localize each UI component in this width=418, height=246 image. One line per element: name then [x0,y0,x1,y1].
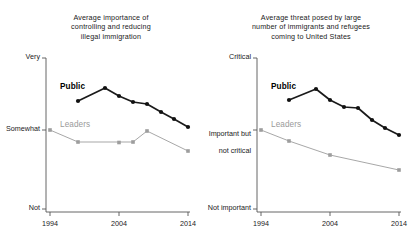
data-point-leaders [145,129,149,133]
y-axis-label-important-line-1: Important but [199,130,251,139]
chart-panel-right: Average threat posed by large number of … [209,0,418,246]
x-axis-label-2004-left: 2004 [99,219,139,228]
data-point-leaders [328,153,332,157]
data-point-leaders [76,140,80,144]
data-point-public [370,118,374,122]
data-point-public [159,110,163,114]
y-axis-label-not-important-right: Not important [197,204,251,213]
data-point-public [117,94,121,98]
x-axis-label-2004-right: 2004 [310,219,350,228]
data-point-public [342,105,346,109]
x-axis-label-1994-right: 1994 [241,219,281,228]
y-axis-label-important-right: Important but not critical [199,121,251,165]
series-line-leaders-left [50,130,188,151]
data-point-public [76,99,80,103]
data-point-public [131,100,135,104]
y-axis-label-not-left: Not [0,204,40,213]
data-point-public [356,106,360,110]
data-point-public [383,126,387,130]
data-point-leaders [48,128,52,132]
series-annotation-leaders-left: Leaders [60,120,90,129]
data-point-leaders [259,128,263,132]
data-point-leaders [287,139,291,143]
x-axis-label-2014-right: 2014 [379,219,418,228]
data-point-leaders [131,140,135,144]
data-point-public [314,87,318,91]
data-point-public [328,98,332,102]
series-annotation-leaders-right: Leaders [271,120,301,129]
data-point-public [103,86,107,90]
series-annotation-public-right: Public [271,82,296,91]
series-line-public-right [289,89,399,135]
y-axis-label-very-left: Very [0,53,40,62]
chart-panel-left: Average importance of controlling and re… [0,0,209,246]
data-point-public [186,125,190,129]
y-axis-label-critical-right: Critical [209,53,251,62]
series-annotation-public-left: Public [60,82,85,91]
data-point-public [287,98,291,102]
data-point-leaders [117,141,121,145]
y-axis-label-somewhat-left: Somewhat [0,125,40,134]
data-point-leaders [397,168,401,172]
y-axis-label-important-line-2: not critical [199,147,251,156]
data-point-leaders [186,149,190,153]
series-line-leaders-right [261,130,399,170]
series-line-public-left [78,88,188,127]
data-point-public [145,102,149,106]
x-axis-label-2014-left: 2014 [168,219,208,228]
dual-line-chart-figure: Average importance of controlling and re… [0,0,418,246]
data-point-public [172,117,176,121]
data-point-public [397,133,401,137]
x-axis-label-1994-left: 1994 [30,219,70,228]
